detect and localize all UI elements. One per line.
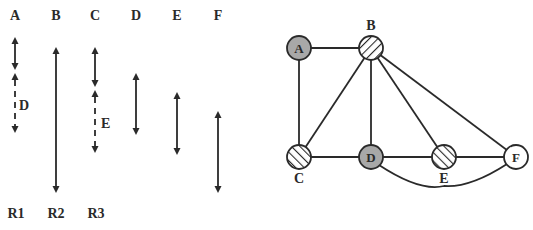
node-c-label: C <box>294 171 304 186</box>
node-a: A <box>287 36 311 60</box>
arrow-up-icon <box>133 73 140 80</box>
column-label-b: B <box>51 8 60 23</box>
node-e: E <box>432 145 456 186</box>
node-f-label: F <box>512 150 520 165</box>
interval-b-solid <box>53 47 60 193</box>
column-label-e: E <box>172 8 181 23</box>
interference-graph: A B C D E F <box>287 18 528 187</box>
node-d: D <box>359 145 383 169</box>
node-b-label: B <box>366 18 375 33</box>
interval-a-dashed-d: D <box>12 73 30 133</box>
column-label-c: C <box>90 8 100 23</box>
column-label-a: A <box>10 8 21 23</box>
edge-b-c <box>299 48 371 157</box>
arrow-up-icon <box>12 73 19 80</box>
node-f: F <box>504 145 528 169</box>
node-c: C <box>287 145 311 186</box>
interval-f-solid <box>215 111 222 193</box>
arrow-down-icon <box>12 126 19 133</box>
arrow-down-icon <box>53 186 60 193</box>
arrow-up-icon <box>53 47 60 54</box>
arrow-up-icon <box>215 111 222 118</box>
interval-label-e: E <box>101 116 110 131</box>
interval-e-solid <box>174 92 181 155</box>
arrow-down-icon <box>133 128 140 135</box>
live-range-panel: A B C D E F D <box>7 8 222 221</box>
node-a-label: A <box>294 41 304 56</box>
arrow-down-icon <box>174 148 181 155</box>
arrow-down-icon <box>215 186 222 193</box>
interval-c-dashed-e: E <box>92 90 111 153</box>
column-label-f: F <box>214 8 223 23</box>
interval-a-solid <box>12 37 19 70</box>
arrow-down-icon <box>12 63 19 70</box>
arrow-up-icon <box>92 47 99 54</box>
node-d-label: D <box>366 150 375 165</box>
column-label-d: D <box>131 8 141 23</box>
arrow-down-icon <box>92 146 99 153</box>
edge-b-f <box>371 48 516 157</box>
interval-label-d: D <box>19 98 29 113</box>
node-e-label: E <box>439 171 448 186</box>
arrow-up-icon <box>92 90 99 97</box>
node-b: B <box>359 18 383 60</box>
interval-d-solid <box>133 73 140 135</box>
register-label-r1: R1 <box>7 206 24 221</box>
edge-b-e <box>371 48 444 157</box>
interference-diagram: A B C D E F D <box>0 0 533 230</box>
register-label-r2: R2 <box>47 206 64 221</box>
arrow-down-icon <box>92 80 99 87</box>
register-label-r3: R3 <box>87 206 104 221</box>
arrow-up-icon <box>174 92 181 99</box>
arrow-up-icon <box>12 37 19 44</box>
interval-c-solid <box>92 47 99 87</box>
